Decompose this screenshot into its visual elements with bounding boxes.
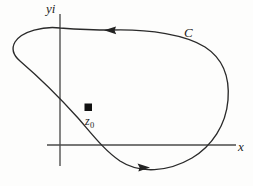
z0-label: z0 [85, 115, 94, 127]
z0-point-marker [85, 104, 93, 112]
horizontal-axis-label: x [238, 140, 244, 153]
vertical-axis-label: yi [46, 2, 55, 15]
z0-label-base: z [85, 114, 90, 128]
figure-canvas [0, 0, 253, 186]
z0-label-subscript: 0 [90, 120, 94, 130]
arrowhead-top-leftward [104, 26, 116, 34]
contour-figure: yi x C z0 [0, 0, 253, 186]
contour-label: C [184, 26, 193, 39]
arrowhead-bottom-rightward [138, 163, 151, 171]
contour-curve [13, 28, 228, 170]
